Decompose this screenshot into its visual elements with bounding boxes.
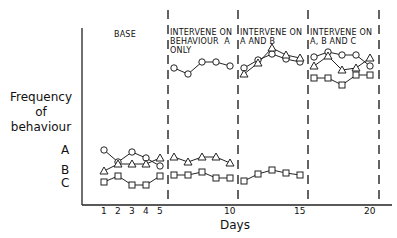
series-label-a: A <box>61 143 69 157</box>
series-label-c: C <box>61 176 69 190</box>
series-c-marker-square-icon <box>297 172 303 178</box>
series-b-marker-triangle-icon <box>240 70 248 77</box>
x-tick-4: 4 <box>143 206 149 216</box>
series-a-marker-circle-icon <box>339 52 345 58</box>
series-c-marker-square-icon <box>101 179 107 185</box>
x-tick-1: 1 <box>101 206 107 216</box>
series-b-marker-triangle-icon <box>100 167 108 174</box>
series-a-marker-circle-icon <box>213 59 219 65</box>
series-c-marker-square-icon <box>241 178 247 184</box>
series-c-marker-square-icon <box>213 175 219 181</box>
series-c-marker-square-icon <box>129 182 135 188</box>
series-c-marker-square-icon <box>157 173 163 179</box>
x-tick-10: 10 <box>224 206 235 216</box>
phase-label-intervene-abc: INTERVENE ON A, B AND C <box>310 28 372 46</box>
series-b-marker-triangle-icon <box>226 159 234 166</box>
phase-label-base: BASE <box>114 30 136 39</box>
x-tick-3: 3 <box>129 206 135 216</box>
y-axis-label: Frequency of behaviour <box>2 90 80 135</box>
phase-label-intervene-a: INTERVENE ON BEHAVIOUR A ONLY <box>170 28 232 55</box>
y-axis-label-line2: of <box>2 105 80 120</box>
series-c-marker-square-icon <box>171 172 177 178</box>
series-c-marker-square-icon <box>115 173 121 179</box>
x-tick-15: 15 <box>294 206 305 216</box>
series-a-marker-circle-icon <box>367 63 373 69</box>
series-a-marker-circle-icon <box>157 163 163 169</box>
series-a-marker-circle-icon <box>227 63 233 69</box>
series-c-marker-square-icon <box>199 169 205 175</box>
series-c-marker-square-icon <box>367 72 373 78</box>
series-a-marker-circle-icon <box>199 59 205 65</box>
y-axis-label-line3: behaviour <box>2 120 80 135</box>
series-c-marker-square-icon <box>269 167 275 173</box>
series-c-marker-square-icon <box>325 75 331 81</box>
phase-label-intervene-ab: INTERVENE ON A AND B <box>240 28 302 46</box>
series-c-marker-square-icon <box>339 82 345 88</box>
series-markers <box>100 44 374 188</box>
x-tick-20: 20 <box>364 206 375 216</box>
series-label-b: B <box>61 163 69 177</box>
series-c-marker-square-icon <box>255 171 261 177</box>
series-a-marker-circle-icon <box>185 71 191 77</box>
series-b-marker-triangle-icon <box>282 51 290 58</box>
series-a-marker-circle-icon <box>269 51 275 57</box>
x-tick-5: 5 <box>157 206 163 216</box>
y-axis-label-line1: Frequency <box>2 90 80 105</box>
series-c-marker-square-icon <box>227 175 233 181</box>
x-tick-2: 2 <box>115 206 121 216</box>
series-b-marker-triangle-icon <box>352 64 360 71</box>
series-a-marker-circle-icon <box>129 149 135 155</box>
series-c-marker-square-icon <box>283 170 289 176</box>
x-axis-label: Days <box>220 218 250 232</box>
series-a-marker-circle-icon <box>171 65 177 71</box>
series-b-marker-triangle-icon <box>366 54 374 61</box>
series-c-marker-square-icon <box>185 172 191 178</box>
series-c-marker-square-icon <box>143 182 149 188</box>
series-b-marker-triangle-icon <box>156 154 164 161</box>
series-c-marker-square-icon <box>353 72 359 78</box>
series-a-marker-circle-icon <box>101 147 107 153</box>
series-a-marker-circle-icon <box>353 52 359 58</box>
series-b-marker-triangle-icon <box>170 153 178 160</box>
series-a-marker-circle-icon <box>311 54 317 60</box>
series-c-marker-square-icon <box>311 75 317 81</box>
series-b-marker-triangle-icon <box>310 62 318 69</box>
